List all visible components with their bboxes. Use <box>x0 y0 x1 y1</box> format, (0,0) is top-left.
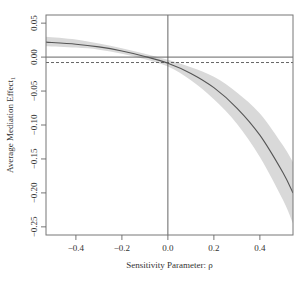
y-tick-label: 0.00 <box>29 49 39 65</box>
y-tick-label: −0.25 <box>29 216 39 237</box>
y-axis-title-subscript: 1 <box>10 77 16 80</box>
mediation-sensitivity-chart: −0.4−0.20.00.20.4 0.050.00−0.05−0.10−0.1… <box>0 0 304 281</box>
y-axis-title: Average Mediation Effect1 <box>5 77 16 173</box>
x-axis: −0.4−0.20.00.20.4 <box>68 235 266 253</box>
y-axis-title-main: Average Mediation Effect <box>5 79 15 173</box>
y-tick-label: −0.15 <box>29 148 39 169</box>
x-axis-title: Sensitivity Parameter: ρ <box>126 260 213 270</box>
x-tick-label: 0.0 <box>162 243 174 253</box>
y-tick-label: 0.05 <box>29 15 39 31</box>
y-axis: 0.050.00−0.05−0.10−0.15−0.20−0.25 <box>29 15 46 237</box>
x-tick-label: 0.2 <box>208 243 219 253</box>
x-tick-label: 0.4 <box>254 243 266 253</box>
y-tick-label: −0.10 <box>29 114 39 135</box>
y-tick-label: −0.20 <box>29 182 39 203</box>
x-tick-label: −0.2 <box>114 243 130 253</box>
y-tick-label: −0.05 <box>29 80 39 101</box>
x-tick-label: −0.4 <box>68 243 85 253</box>
